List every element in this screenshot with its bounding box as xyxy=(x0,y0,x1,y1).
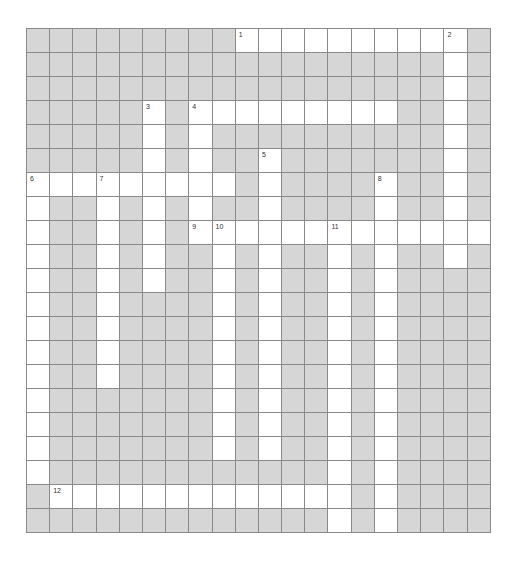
crossword-cell[interactable] xyxy=(305,29,328,53)
crossword-cell[interactable] xyxy=(328,293,351,317)
crossword-cell[interactable] xyxy=(213,413,236,437)
crossword-cell[interactable] xyxy=(328,101,351,125)
crossword-cell[interactable] xyxy=(444,53,467,77)
crossword-cell[interactable] xyxy=(282,485,305,509)
crossword-cell[interactable] xyxy=(328,341,351,365)
crossword-cell[interactable] xyxy=(375,221,398,245)
crossword-cell[interactable] xyxy=(213,101,236,125)
crossword-cell[interactable] xyxy=(444,245,467,269)
crossword-cell[interactable] xyxy=(143,197,166,221)
crossword-cell[interactable]: 3 xyxy=(143,101,166,125)
crossword-cell[interactable] xyxy=(189,485,212,509)
crossword-cell[interactable] xyxy=(259,293,282,317)
crossword-cell[interactable] xyxy=(143,485,166,509)
crossword-cell[interactable] xyxy=(143,221,166,245)
crossword-cell[interactable] xyxy=(259,485,282,509)
crossword-cell[interactable] xyxy=(213,485,236,509)
crossword-cell[interactable] xyxy=(27,221,50,245)
crossword-cell[interactable] xyxy=(328,461,351,485)
crossword-cell[interactable] xyxy=(27,293,50,317)
crossword-cell[interactable]: 1 xyxy=(236,29,259,53)
crossword-cell[interactable] xyxy=(375,317,398,341)
crossword-cell[interactable] xyxy=(444,173,467,197)
crossword-cell[interactable]: 4 xyxy=(189,101,212,125)
crossword-cell[interactable] xyxy=(421,221,444,245)
crossword-cell[interactable] xyxy=(259,365,282,389)
crossword-cell[interactable] xyxy=(259,221,282,245)
crossword-cell[interactable] xyxy=(213,317,236,341)
crossword-cell[interactable] xyxy=(328,413,351,437)
crossword-cell[interactable] xyxy=(282,221,305,245)
crossword-cell[interactable] xyxy=(375,437,398,461)
crossword-cell[interactable] xyxy=(259,437,282,461)
crossword-cell[interactable] xyxy=(375,197,398,221)
crossword-cell[interactable] xyxy=(213,269,236,293)
crossword-cell[interactable] xyxy=(328,29,351,53)
crossword-cell[interactable] xyxy=(328,389,351,413)
crossword-cell[interactable] xyxy=(213,365,236,389)
crossword-cell[interactable] xyxy=(143,269,166,293)
crossword-cell[interactable] xyxy=(375,365,398,389)
crossword-cell[interactable] xyxy=(328,437,351,461)
crossword-cell[interactable] xyxy=(375,341,398,365)
crossword-cell[interactable] xyxy=(259,29,282,53)
crossword-cell[interactable] xyxy=(375,101,398,125)
crossword-cell[interactable] xyxy=(468,221,491,245)
crossword-cell[interactable] xyxy=(97,293,120,317)
crossword-cell[interactable] xyxy=(398,221,421,245)
crossword-cell[interactable] xyxy=(328,269,351,293)
crossword-cell[interactable] xyxy=(97,341,120,365)
crossword-cell[interactable]: 10 xyxy=(213,221,236,245)
crossword-cell[interactable] xyxy=(259,413,282,437)
crossword-cell[interactable] xyxy=(189,149,212,173)
crossword-cell[interactable] xyxy=(282,29,305,53)
crossword-cell[interactable] xyxy=(27,437,50,461)
crossword-cell[interactable] xyxy=(73,485,96,509)
crossword-cell[interactable] xyxy=(259,269,282,293)
crossword-cell[interactable] xyxy=(213,173,236,197)
crossword-cell[interactable] xyxy=(375,29,398,53)
crossword-cell[interactable] xyxy=(375,245,398,269)
crossword-cell[interactable] xyxy=(27,461,50,485)
crossword-cell[interactable] xyxy=(166,173,189,197)
crossword-cell[interactable] xyxy=(236,101,259,125)
crossword-cell[interactable]: 11 xyxy=(328,221,351,245)
crossword-cell[interactable] xyxy=(166,485,189,509)
crossword-cell[interactable] xyxy=(421,29,444,53)
crossword-cell[interactable] xyxy=(328,509,351,533)
crossword-cell[interactable] xyxy=(236,485,259,509)
crossword-cell[interactable] xyxy=(189,173,212,197)
crossword-cell[interactable] xyxy=(236,221,259,245)
crossword-cell[interactable] xyxy=(143,125,166,149)
crossword-cell[interactable] xyxy=(375,389,398,413)
crossword-cell[interactable] xyxy=(444,77,467,101)
crossword-cell[interactable] xyxy=(259,389,282,413)
crossword-cell[interactable] xyxy=(352,221,375,245)
crossword-cell[interactable] xyxy=(97,365,120,389)
crossword-cell[interactable] xyxy=(27,197,50,221)
crossword-cell[interactable] xyxy=(143,173,166,197)
crossword-cell[interactable] xyxy=(375,461,398,485)
crossword-cell[interactable] xyxy=(143,245,166,269)
crossword-cell[interactable] xyxy=(375,269,398,293)
crossword-cell[interactable] xyxy=(328,245,351,269)
crossword-cell[interactable] xyxy=(27,269,50,293)
crossword-cell[interactable] xyxy=(328,485,351,509)
crossword-cell[interactable]: 9 xyxy=(189,221,212,245)
crossword-cell[interactable] xyxy=(352,29,375,53)
crossword-cell[interactable] xyxy=(375,293,398,317)
crossword-cell[interactable] xyxy=(27,389,50,413)
crossword-cell[interactable] xyxy=(97,221,120,245)
crossword-cell[interactable] xyxy=(259,101,282,125)
crossword-cell[interactable] xyxy=(375,485,398,509)
crossword-cell[interactable] xyxy=(27,317,50,341)
crossword-cell[interactable] xyxy=(189,197,212,221)
crossword-cell[interactable] xyxy=(143,149,166,173)
crossword-cell[interactable] xyxy=(444,125,467,149)
crossword-cell[interactable] xyxy=(305,485,328,509)
crossword-cell[interactable]: 12 xyxy=(50,485,73,509)
crossword-cell[interactable] xyxy=(375,509,398,533)
crossword-cell[interactable] xyxy=(328,365,351,389)
crossword-cell[interactable] xyxy=(282,101,305,125)
crossword-cell[interactable] xyxy=(97,317,120,341)
